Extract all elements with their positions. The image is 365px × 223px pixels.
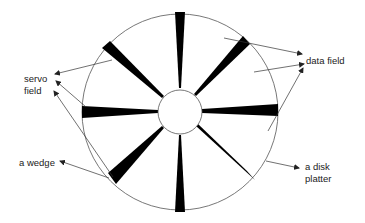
disk-platter-label-line2: platter: [305, 173, 331, 185]
disk-diagram: [0, 0, 365, 223]
platter-hub: [158, 90, 202, 134]
wedge-label: a wedge: [19, 157, 55, 169]
disk-platter-label-line1: a disk: [305, 161, 331, 173]
servo-field-label-line2: field: [24, 85, 47, 97]
servo-field-label-line1: servo: [24, 73, 47, 85]
servo-field-label: servo field: [24, 73, 47, 97]
data-field-label: data field: [306, 55, 345, 67]
disk-platter-label: a disk platter: [305, 161, 331, 185]
